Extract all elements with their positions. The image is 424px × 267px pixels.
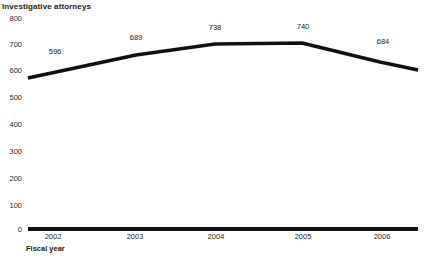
x-axis-tick-2005: 2005 bbox=[283, 232, 323, 241]
x-axis-label: Fiscal year bbox=[26, 244, 65, 253]
chart-container: Investigative attorneys 800 700 600 500 … bbox=[0, 0, 424, 267]
data-label-2005: 740 bbox=[286, 22, 320, 31]
data-label-2003: 689 bbox=[119, 33, 153, 42]
x-axis-tick-2003: 2003 bbox=[115, 232, 155, 241]
x-axis-tick-2004: 2004 bbox=[196, 232, 236, 241]
data-label-2006: 684 bbox=[366, 37, 400, 46]
data-label-2002: 596 bbox=[38, 47, 72, 56]
x-axis-tick-2006: 2006 bbox=[362, 232, 402, 241]
line-series bbox=[0, 0, 424, 267]
line-path bbox=[28, 43, 418, 78]
x-axis-tick-2002: 2002 bbox=[33, 232, 73, 241]
data-label-2004: 738 bbox=[198, 23, 232, 32]
